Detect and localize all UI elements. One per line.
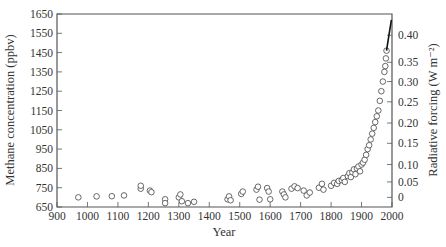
y2-tick-label: 0.25 xyxy=(398,96,418,108)
data-point xyxy=(185,200,191,206)
y-axis-title: Methane concentration (ppbv) xyxy=(3,34,17,185)
x-tick-label: 1400 xyxy=(198,210,221,222)
data-point xyxy=(375,108,381,114)
data-point xyxy=(383,63,389,69)
data-point xyxy=(121,193,127,199)
data-points xyxy=(76,48,390,206)
x-tick-label: 1200 xyxy=(137,210,160,222)
y2-tick-label: 0.30 xyxy=(398,76,418,88)
y-tick-label: 1050 xyxy=(30,124,53,136)
y2-axis-title: Radiative forcing (W m⁻²) xyxy=(426,43,440,176)
data-point xyxy=(257,197,263,203)
x-axis: 9001000110012001300140015001600170018001… xyxy=(48,202,403,222)
data-point xyxy=(379,88,385,94)
x-tick-label: 1800 xyxy=(320,210,343,222)
x-axis-title: Year xyxy=(212,225,236,239)
y2-tick-label: 0.35 xyxy=(398,56,418,68)
data-point xyxy=(321,187,327,193)
x-tick-label: 1700 xyxy=(289,210,312,222)
y2-tick-label: 0.20 xyxy=(398,117,418,129)
data-point xyxy=(377,98,383,104)
data-point xyxy=(366,142,372,148)
x-tick-label: 1600 xyxy=(259,210,282,222)
y-tick-label: 1350 xyxy=(30,66,53,78)
y2-tick-label: 0.05 xyxy=(398,176,418,188)
data-point xyxy=(357,168,363,174)
x-tick-label: 1000 xyxy=(76,210,99,222)
y-tick-label: 1250 xyxy=(30,85,53,97)
y2-tick-label: 0.15 xyxy=(398,137,418,149)
data-point xyxy=(307,190,313,196)
data-point xyxy=(255,184,261,190)
data-point xyxy=(109,193,115,199)
data-point xyxy=(178,192,184,198)
data-point xyxy=(76,195,82,201)
data-point xyxy=(138,183,144,189)
data-point xyxy=(342,179,348,185)
data-point xyxy=(283,195,289,201)
data-point xyxy=(380,79,386,85)
y2-tick-label: 0.40 xyxy=(398,29,418,41)
y-tick-label: 650 xyxy=(36,201,54,213)
y-tick-label: 1150 xyxy=(30,105,53,117)
y2-tick-label: 0 xyxy=(398,191,404,203)
x-tick-label: 1500 xyxy=(228,210,251,222)
x-tick-label: 1100 xyxy=(107,210,130,222)
data-point xyxy=(383,56,389,62)
y-tick-label: 1550 xyxy=(30,27,53,39)
data-point xyxy=(179,198,185,204)
data-point xyxy=(371,125,377,131)
y-tick-label: 1450 xyxy=(30,47,53,59)
data-point xyxy=(240,189,246,195)
data-point xyxy=(295,185,301,191)
y-tick-label: 850 xyxy=(36,162,54,174)
data-point xyxy=(228,197,234,203)
data-point xyxy=(369,131,375,137)
methane-chart: 9001000110012001300140015001600170018001… xyxy=(0,0,446,247)
data-point xyxy=(162,200,168,206)
x-tick-label: 2000 xyxy=(381,210,404,222)
data-point xyxy=(266,189,272,195)
data-point xyxy=(374,113,380,119)
y-tick-label: 750 xyxy=(36,182,54,194)
x-tick-label: 1900 xyxy=(350,210,373,222)
data-point xyxy=(94,194,100,200)
y-tick-label: 950 xyxy=(36,143,54,155)
data-point xyxy=(363,152,369,158)
x-tick-label: 1300 xyxy=(167,210,190,222)
data-point xyxy=(382,69,388,75)
data-point xyxy=(267,196,273,202)
y-tick-label: 1650 xyxy=(30,8,53,20)
data-point xyxy=(191,199,197,205)
data-point xyxy=(368,137,374,143)
data-point xyxy=(372,119,378,125)
y2-tick-label: 0.10 xyxy=(398,159,418,171)
data-point xyxy=(149,189,155,195)
data-point xyxy=(319,181,325,187)
